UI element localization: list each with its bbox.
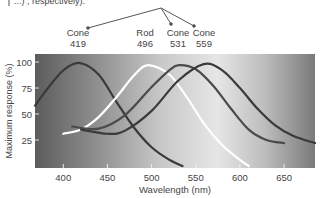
plot-area xyxy=(35,54,315,168)
annotation-cone-419-label: Cone xyxy=(67,27,90,38)
y-tick-label: 100 xyxy=(16,57,32,68)
x-tick-label: 600 xyxy=(232,172,248,183)
annotations: Cone 419 Rod 496 Cone 531 Cone 559 xyxy=(67,27,216,49)
x-tick-label: 500 xyxy=(144,172,160,183)
annotation-cone-419-value: 419 xyxy=(70,38,86,49)
y-tick-label: 50 xyxy=(21,109,32,120)
annotation-cone-559-value: 559 xyxy=(196,38,212,49)
y-axis: 255075100 Maximum response (%) xyxy=(4,57,39,159)
caption-fragment: ...) , respectively). xyxy=(14,0,85,6)
annotation-cone-531-label: Cone xyxy=(167,27,190,38)
x-tick-label: 550 xyxy=(188,172,204,183)
x-tick-label: 400 xyxy=(55,172,71,183)
annotation-cone-559-label: Cone xyxy=(193,27,216,38)
annotation-rod-496-label: Rod xyxy=(136,27,153,38)
annotation-cone-531-value: 531 xyxy=(170,38,186,49)
y-axis-label: Maximum response (%) xyxy=(4,63,14,158)
x-tick-label: 450 xyxy=(99,172,115,183)
x-tick-label: 650 xyxy=(276,172,292,183)
x-axis: 400450500550600650 Wavelength (nm) xyxy=(55,164,292,195)
y-tick-label: 25 xyxy=(21,135,32,146)
x-axis-label: Wavelength (nm) xyxy=(139,184,211,195)
photoreceptor-response-chart: ...) , respectively). Cone 419 Rod 496 C… xyxy=(0,0,323,198)
y-tick-label: 75 xyxy=(21,83,32,94)
annotation-rod-496-value: 496 xyxy=(137,38,153,49)
